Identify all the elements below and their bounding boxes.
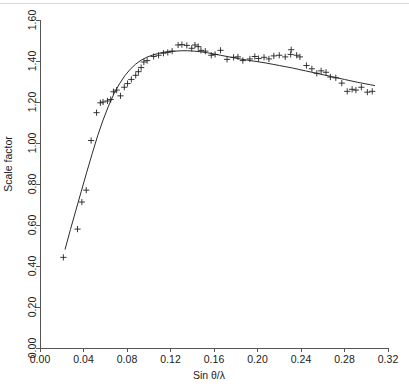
y-axis-tick-label: 0.80 — [26, 174, 38, 195]
y-axis-tick-label: 1.00 — [26, 133, 38, 154]
x-axis-tick-label: 0.04 — [73, 353, 94, 365]
x-axis-tick-label: 0.32 — [378, 353, 399, 365]
x-axis-tick-label: 0.16 — [204, 353, 225, 365]
x-axis-tick-label: 0.28 — [334, 353, 355, 365]
x-axis-tick-label: 0.08 — [117, 353, 138, 365]
y-axis-tick-label: 0.40 — [26, 256, 38, 277]
y-axis-tick-label: 1.60 — [26, 10, 38, 31]
y-axis-tick-label: 1.20 — [26, 92, 38, 113]
y-axis-tick-label: 0.20 — [26, 297, 38, 318]
y-axis-title: Scale factor — [2, 136, 14, 192]
x-axis-tick-label: 0.24 — [291, 353, 312, 365]
x-axis-tick-label: 0.00 — [30, 353, 51, 365]
y-axis-tick-label: 0.60 — [26, 215, 38, 236]
scale-factor-scatter-plot: 0.000.200.400.600.801.001.201.401.60 0.0… — [0, 0, 409, 386]
x-axis-tick-label: 0.20 — [247, 353, 268, 365]
x-axis-title: Sin θ/λ — [193, 369, 226, 381]
x-axis-tick-label: 0.12 — [160, 353, 181, 365]
y-axis-tick-label: 1.40 — [26, 51, 38, 72]
figure-container: 0.000.200.400.600.801.001.201.401.60 0.0… — [0, 0, 409, 386]
plot-background — [0, 0, 409, 386]
